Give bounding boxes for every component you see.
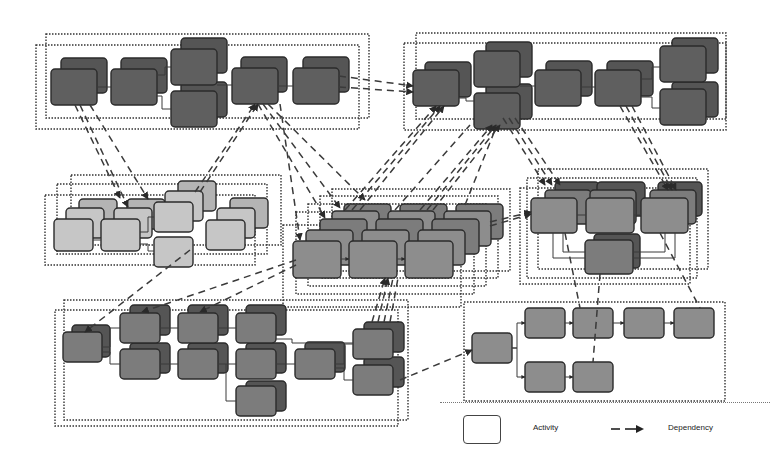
activity bbox=[178, 349, 218, 379]
activity bbox=[232, 68, 278, 104]
activity bbox=[353, 329, 393, 359]
activity bbox=[525, 362, 565, 392]
activity bbox=[525, 308, 565, 338]
activity bbox=[595, 70, 641, 106]
activity bbox=[236, 386, 276, 416]
group-bottom-left bbox=[55, 300, 408, 426]
activity bbox=[236, 349, 276, 379]
legend-divider bbox=[440, 402, 770, 403]
activity bbox=[353, 365, 393, 395]
activity bbox=[531, 198, 577, 233]
activity bbox=[535, 70, 581, 106]
group-top-right bbox=[404, 33, 726, 130]
activity bbox=[474, 51, 520, 87]
activity bbox=[293, 241, 341, 278]
activity bbox=[236, 313, 276, 343]
group-middle-right bbox=[520, 169, 708, 284]
activity bbox=[51, 69, 97, 105]
activity bbox=[101, 219, 140, 251]
legend-activity-icon bbox=[463, 415, 501, 444]
activity bbox=[585, 240, 633, 274]
legend-dependency-label: Dependency bbox=[668, 423, 713, 432]
activity-dependency-diagram: .dk { fill:#5f5f5f; stroke:#2b2b2b; stro… bbox=[0, 0, 773, 471]
activity bbox=[154, 202, 193, 232]
legend-dependency-arrow-icon bbox=[611, 421, 647, 437]
activity bbox=[660, 46, 706, 82]
activity bbox=[660, 89, 706, 125]
activity bbox=[586, 198, 634, 233]
activity bbox=[293, 68, 339, 104]
activity bbox=[641, 198, 688, 233]
group-top-left bbox=[36, 34, 369, 129]
activity bbox=[171, 91, 217, 127]
activity bbox=[349, 241, 397, 278]
activity bbox=[206, 220, 245, 250]
activity bbox=[54, 219, 93, 251]
group-middle-center bbox=[283, 189, 510, 307]
activity bbox=[111, 69, 157, 105]
activity bbox=[171, 49, 217, 85]
activity bbox=[120, 313, 160, 343]
legend-activity-label: Activity bbox=[533, 423, 558, 432]
activity bbox=[405, 241, 453, 278]
legend: Activity Dependency bbox=[463, 414, 763, 444]
activity bbox=[63, 332, 102, 362]
activity bbox=[674, 308, 714, 338]
activity bbox=[295, 349, 335, 379]
activity bbox=[573, 308, 613, 338]
activity bbox=[472, 333, 512, 363]
group-middle-left bbox=[45, 175, 281, 267]
activity bbox=[573, 362, 613, 392]
activity bbox=[413, 70, 459, 106]
activity bbox=[624, 308, 664, 338]
activity bbox=[120, 349, 160, 379]
activity bbox=[178, 313, 218, 343]
